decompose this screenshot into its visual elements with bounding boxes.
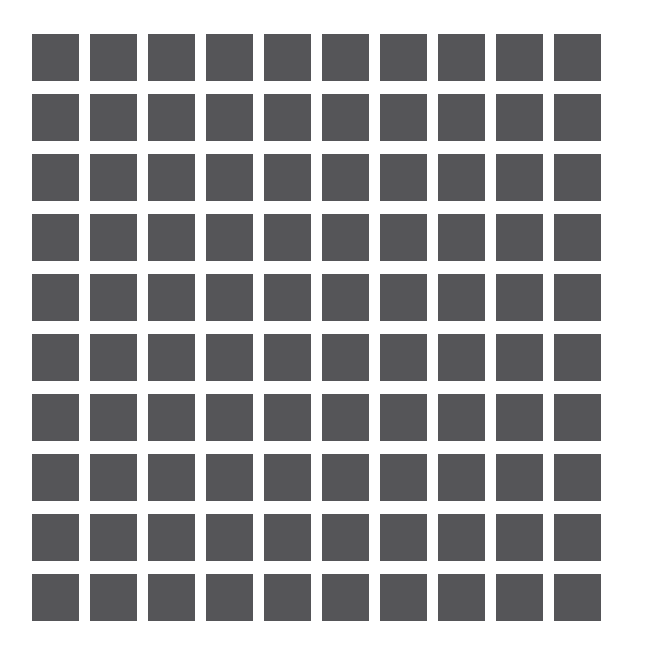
grid-square [32, 394, 79, 441]
grid-square [438, 274, 485, 321]
grid-square [438, 514, 485, 561]
grid-square [322, 394, 369, 441]
grid-square [148, 394, 195, 441]
grid-square [32, 34, 79, 81]
grid-square [554, 154, 601, 201]
grid-square [554, 334, 601, 381]
grid-square [322, 94, 369, 141]
grid-square [380, 154, 427, 201]
grid-square [380, 394, 427, 441]
grid-square [148, 274, 195, 321]
grid-square [32, 334, 79, 381]
grid-square [32, 154, 79, 201]
grid-square [380, 574, 427, 621]
grid-square [322, 274, 369, 321]
grid-square [380, 274, 427, 321]
grid-square [322, 514, 369, 561]
grid-square [322, 334, 369, 381]
grid-square [264, 394, 311, 441]
grid-square [380, 94, 427, 141]
grid-square [438, 394, 485, 441]
grid-square [264, 574, 311, 621]
grid-square [206, 454, 253, 501]
grid-square [322, 454, 369, 501]
grid-square [90, 394, 137, 441]
grid-square [148, 214, 195, 261]
grid-square [206, 34, 253, 81]
grid-square [90, 214, 137, 261]
grid-square [496, 394, 543, 441]
grid-square [148, 454, 195, 501]
grid-square [496, 334, 543, 381]
grid-square [90, 34, 137, 81]
grid-square [32, 514, 79, 561]
grid-square [322, 34, 369, 81]
grid-square [148, 514, 195, 561]
grid-square [148, 34, 195, 81]
grid-square [90, 574, 137, 621]
grid-square [264, 154, 311, 201]
grid-square [206, 394, 253, 441]
grid-square [322, 214, 369, 261]
grid-square [554, 94, 601, 141]
grid-square [264, 94, 311, 141]
grid-square [554, 574, 601, 621]
grid-square [496, 454, 543, 501]
grid-square [148, 154, 195, 201]
grid-square [554, 394, 601, 441]
grid-square [554, 514, 601, 561]
grid-square [496, 574, 543, 621]
grid-square [206, 514, 253, 561]
grid-square [438, 334, 485, 381]
grid-square [496, 514, 543, 561]
grid-square [206, 94, 253, 141]
grid-square [206, 214, 253, 261]
grid-square [322, 154, 369, 201]
grid-square [380, 514, 427, 561]
grid-square [438, 574, 485, 621]
grid-square [496, 214, 543, 261]
grid-square [90, 454, 137, 501]
grid-square [264, 34, 311, 81]
grid-square [380, 334, 427, 381]
grid-square [206, 274, 253, 321]
grid-square [32, 94, 79, 141]
grid-square [32, 574, 79, 621]
grid-square [264, 334, 311, 381]
grid-square [206, 154, 253, 201]
grid-square [438, 34, 485, 81]
grid-square [496, 154, 543, 201]
grid-square [554, 274, 601, 321]
grid-square [264, 214, 311, 261]
grid-square [148, 334, 195, 381]
grid-square [496, 274, 543, 321]
grid-square [264, 274, 311, 321]
grid-square [380, 214, 427, 261]
grid-square [32, 274, 79, 321]
grid-square [90, 334, 137, 381]
grid-square [148, 574, 195, 621]
grid-square [554, 454, 601, 501]
grid-square [148, 94, 195, 141]
grid-square [438, 454, 485, 501]
grid-square [554, 34, 601, 81]
grid-square [90, 514, 137, 561]
grid-square [438, 154, 485, 201]
grid-square [264, 454, 311, 501]
grid-square [206, 334, 253, 381]
grid-square [206, 574, 253, 621]
grid-square [32, 454, 79, 501]
grid-square [32, 214, 79, 261]
grid-square [90, 94, 137, 141]
grid-square [438, 94, 485, 141]
grid-square [322, 574, 369, 621]
grid-square [90, 274, 137, 321]
grid-square [380, 34, 427, 81]
grid-square [496, 94, 543, 141]
grid-square [496, 34, 543, 81]
grid-square [90, 154, 137, 201]
grid-square [438, 214, 485, 261]
square-grid-canvas [0, 0, 646, 666]
grid-square [264, 514, 311, 561]
grid-square [554, 214, 601, 261]
